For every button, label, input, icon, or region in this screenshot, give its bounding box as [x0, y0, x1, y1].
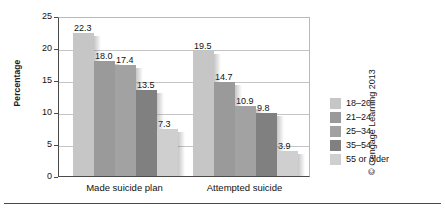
legend: 18–2021–2425–3435–5455 or older — [330, 96, 389, 166]
plot-area: 22.318.017.413.57.319.514.710.99.83.9 — [58, 17, 310, 177]
copyright-credit: © Cengage Learning 2013 — [367, 55, 377, 175]
bar[interactable] — [94, 61, 115, 176]
legend-swatch — [330, 98, 341, 109]
bottom-divider — [4, 203, 441, 204]
legend-item: 18–20 — [330, 96, 389, 110]
y-axis-tick-mark — [54, 177, 58, 178]
bar-group — [73, 18, 178, 176]
legend-item: 55 or older — [330, 152, 389, 166]
bar[interactable] — [115, 65, 136, 176]
y-axis-tick-label: 15 — [30, 75, 52, 85]
bar[interactable] — [193, 51, 214, 176]
y-axis-tick-label: 20 — [30, 43, 52, 53]
bar[interactable] — [157, 129, 178, 176]
bar[interactable] — [136, 90, 157, 176]
legend-item: 25–34 — [330, 124, 389, 138]
y-axis-tick-label: 5 — [30, 139, 52, 149]
legend-swatch — [330, 126, 341, 137]
legend-item: 21–24 — [330, 110, 389, 124]
bar[interactable] — [73, 33, 94, 176]
y-axis-title: Percentage — [12, 33, 22, 133]
bar-group — [193, 18, 298, 176]
x-axis-category-label: Attempted suicide — [185, 182, 305, 193]
bar[interactable] — [277, 151, 298, 176]
bar[interactable] — [256, 113, 277, 176]
bar-shadow — [178, 132, 185, 176]
y-axis-tick-label: 25 — [30, 11, 52, 21]
legend-item: 35–54 — [330, 138, 389, 152]
bar-shadow — [298, 154, 305, 176]
bar-chart-figure: Percentage 0510152025 22.318.017.413.57.… — [0, 0, 445, 211]
bar[interactable] — [214, 82, 235, 176]
x-axis-category-label: Made suicide plan — [65, 182, 185, 193]
y-axis-tick-label: 10 — [30, 107, 52, 117]
legend-swatch — [330, 140, 341, 151]
bar[interactable] — [235, 106, 256, 176]
legend-swatch — [330, 154, 341, 165]
y-axis-tick-label: 0 — [30, 171, 52, 181]
legend-swatch — [330, 112, 341, 123]
